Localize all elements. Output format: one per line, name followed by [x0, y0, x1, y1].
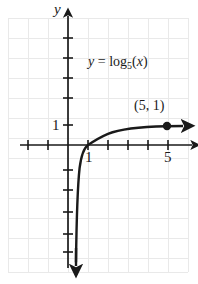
y-tick-label-1: 1	[52, 118, 60, 133]
log-curve	[76, 126, 166, 262]
equation-function: log	[109, 54, 127, 69]
y-axis-label: y	[54, 2, 61, 17]
coordinate-plane	[0, 0, 198, 284]
equation-label: y = log5(x)	[88, 55, 148, 71]
equation-lhs: y	[88, 54, 94, 69]
equation-close-paren: )	[143, 54, 148, 69]
log-function-graph-figure: y 1 1 5 y = log5(x) (5, 1)	[0, 0, 198, 284]
x-tick-label-1: 1	[85, 150, 93, 165]
marked-point-5-1	[163, 122, 171, 130]
point-annotation-label: (5, 1)	[134, 99, 164, 113]
equation-equals: =	[98, 54, 106, 69]
x-tick-label-5: 5	[164, 150, 172, 165]
